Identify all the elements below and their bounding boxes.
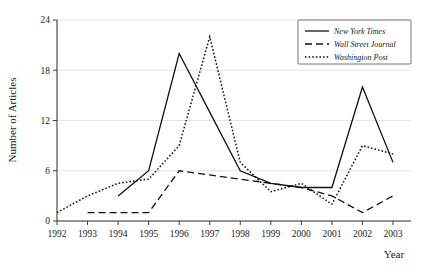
- legend: New York TimesWall Street JournalWashing…: [298, 20, 411, 64]
- x-tick-label: 1993: [78, 229, 97, 239]
- x-tick-label: 2000: [292, 229, 311, 239]
- x-tick-labels: 1992199319941995199619971998199920002001…: [48, 229, 403, 239]
- y-tick-label: 18: [41, 66, 51, 76]
- x-tick-label: 2001: [322, 229, 341, 239]
- x-tick-label: 1996: [170, 229, 189, 239]
- y-axis-title: Number of Articles: [6, 78, 18, 163]
- series-new-york-times: [118, 54, 393, 196]
- x-tick-label: 1992: [48, 229, 67, 239]
- y-tick-label: 6: [45, 166, 50, 176]
- x-tick-label: 1998: [231, 229, 250, 239]
- chart-canvas: 06121824 1992199319941995199619971998199…: [0, 0, 426, 274]
- line-chart: 06121824 1992199319941995199619971998199…: [0, 0, 426, 274]
- x-tick-label: 1995: [139, 229, 158, 239]
- y-tick-label: 24: [41, 15, 51, 25]
- x-tick-label: 1994: [109, 229, 128, 239]
- series-wall-street-journal: [88, 171, 393, 213]
- x-tick-marks: [57, 221, 393, 225]
- legend-label: New York Times: [333, 27, 385, 36]
- y-tick-marks: [53, 20, 57, 221]
- x-tick-label: 1999: [261, 229, 280, 239]
- y-tick-label: 0: [45, 216, 50, 226]
- x-axis-title: Year: [384, 248, 405, 260]
- y-tick-labels: 06121824: [41, 15, 51, 226]
- x-tick-label: 1997: [200, 229, 219, 239]
- x-tick-label: 2003: [384, 229, 403, 239]
- legend-label: Washington Post: [334, 53, 388, 62]
- x-tick-label: 2002: [353, 229, 372, 239]
- y-tick-label: 12: [41, 116, 51, 126]
- legend-label: Wall Street Journal: [334, 40, 396, 49]
